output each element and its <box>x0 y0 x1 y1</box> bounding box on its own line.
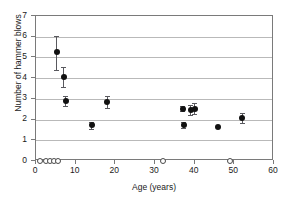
gridline <box>36 99 272 100</box>
y-axis-tick-label: 2 <box>5 114 27 123</box>
data-point-filled <box>63 98 69 104</box>
data-point-filled <box>192 106 198 112</box>
data-point-filled <box>215 124 221 130</box>
x-axis-tick <box>114 160 115 164</box>
x-axis-tick <box>273 160 274 164</box>
error-bar-cap <box>240 113 245 114</box>
y-axis-tick-label: 6 <box>5 31 27 40</box>
error-bar-cap <box>63 96 68 97</box>
x-axis-tick <box>35 160 36 164</box>
gridline <box>36 78 272 79</box>
x-axis-tick-label: 30 <box>139 166 169 175</box>
error-bar-cap <box>188 115 193 116</box>
data-point-filled <box>61 74 67 80</box>
error-bar-cap <box>192 114 197 115</box>
data-point-open <box>160 158 166 164</box>
data-point-open <box>55 158 61 164</box>
x-axis-tick-label: 50 <box>218 166 248 175</box>
x-axis-tick-label: 10 <box>60 166 90 175</box>
data-point-filled <box>180 106 186 112</box>
error-bar-cap <box>63 106 68 107</box>
x-axis-tick <box>194 160 195 164</box>
y-axis-tick-label: 3 <box>5 93 27 102</box>
x-axis-tick <box>154 160 155 164</box>
data-point-filled <box>54 49 60 55</box>
data-point-filled <box>89 122 95 128</box>
error-bar-cap <box>54 36 59 37</box>
error-bar-cap <box>105 96 110 97</box>
x-axis-tick <box>75 160 76 164</box>
y-axis-tick-label: 7 <box>5 11 27 20</box>
data-point-filled <box>181 122 187 128</box>
gridline <box>36 140 272 141</box>
error-bar-cap <box>240 123 245 124</box>
error-bar-cap <box>61 87 66 88</box>
x-axis-tick-label: 0 <box>20 166 50 175</box>
error-bar-cap <box>181 128 186 129</box>
scatter-chart-figure: Number of hammer blows Age (years) 01234… <box>0 0 289 199</box>
y-axis-tick-label: 4 <box>5 73 27 82</box>
y-axis-tick-label: 1 <box>5 135 27 144</box>
x-axis-tick <box>233 160 234 164</box>
error-bar-cap <box>192 103 197 104</box>
gridline <box>36 120 272 121</box>
x-axis-title: Age (years) <box>35 182 273 192</box>
data-point-filled <box>104 99 110 105</box>
y-axis-tick-label: 5 <box>5 52 27 61</box>
error-bar-cap <box>54 70 59 71</box>
plot-area <box>35 15 273 160</box>
x-axis-tick-label: 40 <box>179 166 209 175</box>
gridline <box>36 37 272 38</box>
x-axis-tick-label: 60 <box>258 166 288 175</box>
error-bar-cap <box>89 129 94 130</box>
error-bar-cap <box>105 108 110 109</box>
y-axis-tick-label: 0 <box>5 156 27 165</box>
gridline <box>36 57 272 58</box>
error-bar-cap <box>61 67 66 68</box>
x-axis-tick-label: 20 <box>99 166 129 175</box>
